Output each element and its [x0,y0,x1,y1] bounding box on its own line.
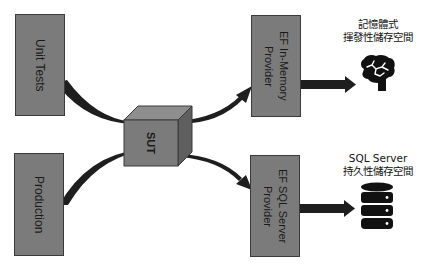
ef-sqlserver-box: EF SQL Server Provider [250,155,300,257]
unit-tests-label: Unit Tests [33,39,47,91]
brain-icon [361,55,395,91]
sut-label: SUT [144,132,158,154]
arrow-shaft-inmemory [300,80,346,89]
ef-inmemory-box: EF In-Memory Provider [251,15,301,117]
production-label: Production [32,176,46,233]
production-box: Production [14,153,64,256]
sqlserver-storage-label: SQL Server 持久性儲存空間 [328,152,428,178]
sut-box: SUT [124,120,178,166]
diagram-canvas: Unit Tests Production SUT EF In-Memory P… [0,0,428,268]
arrowhead-database [344,200,355,217]
ef-inmemory-label: EF In-Memory Provider [261,31,291,101]
ef-sqlserver-label: EF SQL Server Provider [260,169,290,243]
unit-tests-box: Unit Tests [15,14,65,116]
connector-unittests-sut [60,80,132,124]
arrowhead-brain [345,76,356,93]
database-icon [361,183,393,230]
arrow-shaft-sqlserver [299,204,345,213]
connector-sut-sqlserver [180,154,242,181]
inmemory-storage-label: 記憶體式 揮發性儲存空間 [328,18,428,44]
